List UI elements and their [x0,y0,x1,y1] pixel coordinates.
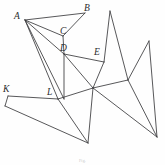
graph-edge [5,96,8,106]
graph-edge [58,88,93,99]
graph-edge [93,88,157,137]
graph-edge [110,11,128,80]
vertex-label-d: D [60,44,67,54]
figure-caption: Fig. [0,158,165,163]
graph-edge [128,41,149,80]
graph-edge [93,62,104,88]
graph-edge [25,13,85,20]
graph-canvas [0,0,165,165]
vertex-label-c: C [60,27,66,37]
vertex-label-l: L [47,88,52,98]
vertex-label-e: E [94,48,100,58]
graph-edge [104,11,110,62]
figure-container: ABCDEKL Fig. [0,0,165,165]
graph-edge [88,88,93,143]
edges-group [5,11,157,143]
graph-edge [25,20,64,99]
vertex-label-b: B [84,4,90,14]
graph-edge [93,80,128,88]
graph-edge [149,41,157,137]
vertex-label-a: A [14,12,20,22]
vertex-label-k: K [3,85,9,95]
graph-edge [25,20,64,54]
